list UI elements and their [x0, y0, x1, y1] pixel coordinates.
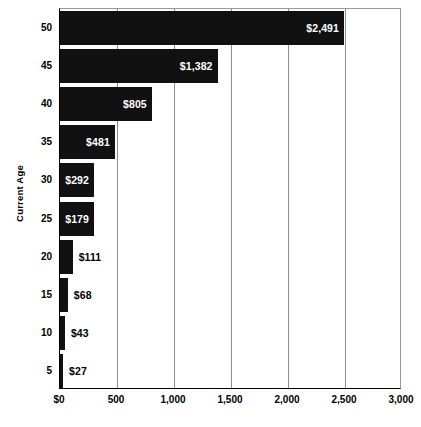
bar — [60, 278, 68, 312]
bar — [60, 354, 63, 388]
bar-value-label: $292 — [65, 174, 89, 186]
y-axis-tick-label: 30 — [12, 174, 52, 185]
bar-value-label: $481 — [86, 136, 110, 148]
plot-area: $2,491$1,382$805$481$292$179$111$68$43$2… — [59, 8, 401, 389]
bar — [60, 240, 73, 274]
y-axis-tick-label: 50 — [12, 22, 52, 33]
bar-value-label: $43 — [71, 327, 89, 339]
bar-chart: Current Age 5045403530252015105 $2,491$1… — [0, 0, 421, 427]
y-axis-tick-label: 40 — [12, 98, 52, 109]
bar-row: $292 — [60, 163, 402, 197]
x-axis-tick-label: 3,000 — [366, 394, 421, 405]
bar-row: $1,382 — [60, 49, 402, 83]
y-axis-tick-label: 25 — [12, 212, 52, 223]
y-axis-tick-labels: 5045403530252015105 — [8, 0, 52, 427]
bar — [60, 316, 65, 350]
bar-row: $805 — [60, 87, 402, 121]
bar-row: $481 — [60, 125, 402, 159]
bar-row: $179 — [60, 202, 402, 236]
y-axis-tick-label: 45 — [12, 60, 52, 71]
y-axis-tick-label: 20 — [12, 250, 52, 261]
bar-value-label: $179 — [65, 213, 89, 225]
bar-value-label: $27 — [69, 365, 87, 377]
x-axis-tick-labels: $05001,0001,5002,0002,5003,000 — [0, 394, 421, 416]
bar-row: $111 — [60, 240, 402, 274]
y-axis-tick-label: 15 — [12, 288, 52, 299]
bar-value-label: $805 — [123, 98, 147, 110]
bar-row: $2,491 — [60, 11, 402, 45]
y-axis-tick-label: 5 — [12, 364, 52, 375]
bar-row: $43 — [60, 316, 402, 350]
bar-value-label: $68 — [74, 289, 92, 301]
y-axis-tick-label: 35 — [12, 136, 52, 147]
bar-value-label: $2,491 — [306, 22, 339, 34]
bar-row: $27 — [60, 354, 402, 388]
bar-row: $68 — [60, 278, 402, 312]
bar-value-label: $1,382 — [180, 60, 213, 72]
y-axis-tick-label: 10 — [12, 326, 52, 337]
bar-value-label: $111 — [79, 251, 102, 263]
bar — [60, 11, 344, 45]
